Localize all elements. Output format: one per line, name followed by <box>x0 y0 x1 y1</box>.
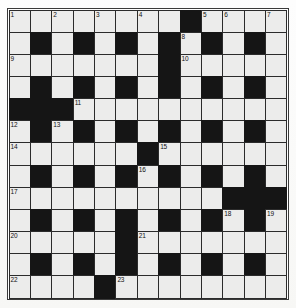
grid-cell[interactable] <box>51 54 73 77</box>
grid-cell[interactable] <box>180 187 202 210</box>
grid-cell[interactable]: 20 <box>9 231 31 254</box>
crossword-grid[interactable]: 1234567891011121314151617181920212223 <box>9 10 287 298</box>
grid-cell[interactable] <box>94 76 116 99</box>
grid-cell[interactable] <box>201 142 223 165</box>
grid-cell[interactable] <box>115 187 137 210</box>
grid-cell[interactable] <box>158 10 180 33</box>
grid-cell[interactable] <box>9 209 31 232</box>
grid-cell[interactable]: 17 <box>9 187 31 210</box>
grid-cell[interactable]: 8 <box>180 32 202 55</box>
grid-cell[interactable] <box>137 187 159 210</box>
grid-cell[interactable] <box>30 54 52 77</box>
grid-cell[interactable]: 1 <box>9 10 31 33</box>
grid-cell[interactable] <box>180 231 202 254</box>
grid-cell[interactable]: 23 <box>115 275 137 298</box>
grid-cell[interactable] <box>73 10 95 33</box>
grid-cell[interactable] <box>265 54 287 77</box>
grid-cell[interactable] <box>265 231 287 254</box>
grid-cell[interactable] <box>265 165 287 188</box>
grid-cell[interactable] <box>180 165 202 188</box>
grid-cell[interactable] <box>222 275 244 298</box>
grid-cell[interactable] <box>94 231 116 254</box>
grid-cell[interactable]: 11 <box>73 98 95 121</box>
grid-cell[interactable] <box>180 76 202 99</box>
grid-cell[interactable]: 3 <box>94 10 116 33</box>
grid-cell[interactable] <box>30 10 52 33</box>
grid-cell[interactable] <box>115 98 137 121</box>
grid-cell[interactable]: 22 <box>9 275 31 298</box>
grid-cell[interactable] <box>201 231 223 254</box>
grid-cell[interactable] <box>137 98 159 121</box>
grid-cell[interactable] <box>94 165 116 188</box>
grid-cell[interactable] <box>51 253 73 276</box>
grid-cell[interactable] <box>201 98 223 121</box>
grid-cell[interactable] <box>137 275 159 298</box>
grid-cell[interactable] <box>51 76 73 99</box>
grid-cell[interactable] <box>9 165 31 188</box>
grid-cell[interactable] <box>30 231 52 254</box>
grid-cell[interactable] <box>222 120 244 143</box>
grid-cell[interactable] <box>94 120 116 143</box>
grid-cell[interactable] <box>222 54 244 77</box>
grid-cell[interactable] <box>51 32 73 55</box>
grid-cell[interactable] <box>137 209 159 232</box>
grid-cell[interactable] <box>244 10 266 33</box>
grid-cell[interactable] <box>51 142 73 165</box>
grid-cell[interactable] <box>51 209 73 232</box>
grid-cell[interactable] <box>201 54 223 77</box>
grid-cell[interactable] <box>244 275 266 298</box>
grid-cell[interactable] <box>94 32 116 55</box>
grid-cell[interactable] <box>222 165 244 188</box>
grid-cell[interactable] <box>94 98 116 121</box>
grid-cell[interactable]: 19 <box>265 209 287 232</box>
grid-cell[interactable] <box>265 98 287 121</box>
grid-cell[interactable]: 16 <box>137 165 159 188</box>
grid-cell[interactable] <box>222 32 244 55</box>
grid-cell[interactable] <box>94 187 116 210</box>
grid-cell[interactable] <box>265 253 287 276</box>
grid-cell[interactable] <box>51 165 73 188</box>
grid-cell[interactable]: 5 <box>201 10 223 33</box>
grid-cell[interactable] <box>94 142 116 165</box>
grid-cell[interactable] <box>180 209 202 232</box>
grid-cell[interactable] <box>222 98 244 121</box>
grid-cell[interactable] <box>30 187 52 210</box>
grid-cell[interactable] <box>73 275 95 298</box>
grid-cell[interactable] <box>9 253 31 276</box>
grid-cell[interactable] <box>51 187 73 210</box>
grid-cell[interactable] <box>201 275 223 298</box>
grid-cell[interactable] <box>180 98 202 121</box>
grid-cell[interactable]: 2 <box>51 10 73 33</box>
grid-cell[interactable] <box>222 253 244 276</box>
grid-cell[interactable] <box>9 76 31 99</box>
grid-cell[interactable] <box>265 76 287 99</box>
grid-cell[interactable] <box>180 253 202 276</box>
grid-cell[interactable]: 14 <box>9 142 31 165</box>
grid-cell[interactable]: 13 <box>51 120 73 143</box>
grid-cell[interactable] <box>94 54 116 77</box>
grid-cell[interactable]: 12 <box>9 120 31 143</box>
grid-cell[interactable] <box>222 142 244 165</box>
grid-cell[interactable] <box>137 120 159 143</box>
grid-cell[interactable] <box>201 187 223 210</box>
grid-cell[interactable] <box>180 142 202 165</box>
grid-cell[interactable] <box>244 231 266 254</box>
grid-cell[interactable] <box>222 231 244 254</box>
grid-cell[interactable] <box>94 253 116 276</box>
grid-cell[interactable] <box>265 142 287 165</box>
grid-cell[interactable]: 7 <box>265 10 287 33</box>
grid-cell[interactable]: 21 <box>137 231 159 254</box>
grid-cell[interactable] <box>94 209 116 232</box>
grid-cell[interactable] <box>9 32 31 55</box>
grid-cell[interactable] <box>30 275 52 298</box>
grid-cell[interactable] <box>158 187 180 210</box>
grid-cell[interactable] <box>51 275 73 298</box>
grid-cell[interactable]: 9 <box>9 54 31 77</box>
grid-cell[interactable] <box>158 231 180 254</box>
grid-cell[interactable] <box>137 253 159 276</box>
grid-cell[interactable] <box>137 32 159 55</box>
grid-cell[interactable] <box>73 54 95 77</box>
grid-cell[interactable]: 18 <box>222 209 244 232</box>
grid-cell[interactable] <box>73 187 95 210</box>
grid-cell[interactable] <box>115 142 137 165</box>
